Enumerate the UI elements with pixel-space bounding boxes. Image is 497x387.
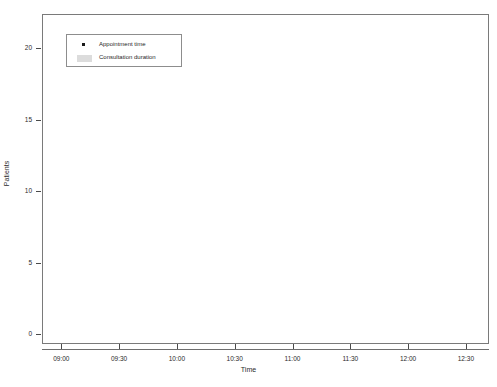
y-tick-label: 15: [25, 116, 32, 123]
x-tick-mark: [235, 344, 236, 349]
y-tick-label: 20: [25, 44, 32, 51]
x-tick-mark: [61, 344, 62, 349]
x-tick-label: 10:30: [215, 355, 255, 362]
x-tick-label: 12:00: [388, 355, 428, 362]
x-tick-mark: [350, 344, 351, 349]
y-tick-mark: [36, 191, 41, 192]
legend-label-consultation-duration: Consultation duration: [99, 54, 156, 60]
y-tick-label: 10: [25, 187, 32, 194]
x-tick-mark: [408, 344, 409, 349]
y-tick-mark: [36, 334, 41, 335]
legend-item-appointment-time: Appointment time: [67, 38, 181, 52]
x-tick-label: 10:00: [157, 355, 197, 362]
y-tick-label: 5: [28, 259, 32, 266]
x-tick-label: 11:00: [273, 355, 313, 362]
x-tick-label: 11:30: [330, 355, 370, 362]
x-axis-line: [42, 349, 489, 350]
x-tick-mark: [293, 344, 294, 349]
y-tick-label: 0: [28, 330, 32, 337]
legend-label-appointment-time: Appointment time: [99, 41, 146, 47]
y-tick-mark: [36, 263, 41, 264]
y-tick-mark: [36, 120, 41, 121]
x-tick-mark: [177, 344, 178, 349]
appointment-dot-icon: [75, 38, 95, 52]
x-axis-label: Time: [0, 366, 497, 373]
y-tick-mark: [36, 48, 41, 49]
x-tick-mark: [119, 344, 120, 349]
x-tick-label: 12:30: [446, 355, 486, 362]
legend-item-consultation-duration: Consultation duration: [67, 51, 181, 65]
x-tick-mark: [466, 344, 467, 349]
x-tick-label: 09:30: [99, 355, 139, 362]
x-tick-label: 09:00: [41, 355, 81, 362]
chart-figure: 05101520 09:0009:3010:0010:3011:0011:301…: [0, 0, 497, 387]
chart-legend: Appointment time Consultation duration: [66, 34, 182, 67]
y-axis-label: Patients: [3, 144, 10, 204]
duration-swatch-icon: [75, 51, 95, 65]
